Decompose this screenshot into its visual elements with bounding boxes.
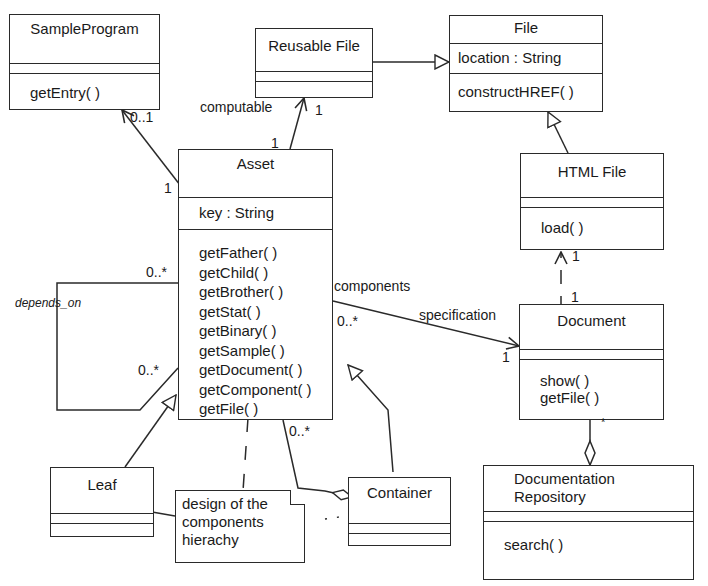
note-link-leaf: [152, 512, 175, 516]
aggregation-diamond: [585, 441, 595, 465]
association-reusable-file: [290, 98, 304, 149]
operation: getComponent( ): [199, 380, 324, 400]
class-html-file[interactable]: HTML File load( ): [520, 153, 664, 250]
attributes-section: [51, 513, 153, 523]
attributes-section: [256, 71, 372, 81]
role-computable: computable: [200, 99, 272, 115]
role-specification: specification: [419, 307, 496, 323]
class-name: HTML File: [521, 154, 663, 197]
multiplicity-sample-target: 0..1: [130, 109, 153, 125]
operations-section: [349, 533, 450, 545]
association-depends-on: depends_on: [15, 296, 81, 310]
operations-section: getFather( ) getChild( ) getBrother( ) g…: [179, 229, 332, 422]
operations-section: constructHREF( ): [450, 73, 602, 103]
operations-section: load( ): [521, 207, 663, 239]
note-link-asset: [243, 418, 248, 491]
multiplicity-reusable-target: 1: [315, 102, 323, 118]
generalization-leaf: [125, 395, 176, 467]
class-name: Asset: [179, 150, 332, 197]
attributes-section: [10, 63, 159, 73]
note-line: hierachy: [182, 531, 298, 549]
attributes-section: [520, 349, 663, 359]
note-line: components: [182, 513, 298, 531]
multiplicity-document-star: *: [601, 416, 605, 428]
attribute: key : String: [199, 204, 324, 221]
class-name: Documentation Repository: [484, 466, 693, 511]
attributes-section: key : String: [179, 197, 332, 229]
class-name: File: [450, 16, 602, 43]
class-name: Reusable File: [256, 29, 372, 71]
operation: constructHREF( ): [458, 83, 594, 100]
note-link-container: [325, 516, 347, 519]
operation: getBinary( ): [199, 321, 324, 341]
multiplicity-html-file: 1: [572, 248, 580, 264]
attributes-section: [484, 511, 693, 521]
multiplicity-container: 0..*: [289, 423, 310, 439]
class-container[interactable]: Container: [348, 477, 451, 546]
class-file[interactable]: File location : String constructHREF( ): [449, 15, 603, 112]
class-document[interactable]: Document show( ) getFile( ): [519, 304, 664, 420]
operation: getStat( ): [199, 302, 324, 322]
multiplicity-specification: 1: [502, 349, 510, 365]
operations-section: getEntry( ): [10, 73, 159, 104]
operations-section: [256, 81, 372, 97]
class-name: Document: [520, 305, 663, 349]
multiplicity-components: 0..*: [337, 313, 358, 329]
operation: getDocument( ): [199, 360, 324, 380]
class-asset[interactable]: Asset key : String getFather( ) getChild…: [178, 149, 333, 420]
generalization-container: [348, 365, 393, 472]
class-sample-program[interactable]: SampleProgram getEntry( ): [9, 14, 160, 110]
attributes-section: [349, 523, 450, 533]
multiplicity-depends-top: 0..*: [146, 264, 167, 280]
role-components: components: [334, 278, 410, 294]
note-components-hierarchy[interactable]: design of the components hierachy: [175, 490, 305, 563]
multiplicity-sample-source: 1: [164, 180, 172, 196]
class-name-line: Repository: [514, 488, 693, 506]
operation: getSample( ): [199, 341, 324, 361]
class-name: SampleProgram: [10, 15, 159, 63]
class-leaf[interactable]: Leaf: [50, 467, 154, 537]
operations-section: [51, 523, 153, 535]
operation: search( ): [504, 536, 685, 553]
attributes-section: location : String: [450, 43, 602, 73]
class-name-line: Documentation: [514, 470, 693, 488]
operation: getEntry( ): [30, 84, 151, 101]
generalization-html-file: [548, 112, 568, 153]
note-fold-corner: [290, 490, 305, 505]
attribute: location : String: [458, 49, 594, 66]
class-name: Leaf: [51, 468, 153, 513]
operation: getFile( ): [540, 389, 655, 406]
class-reusable-file[interactable]: Reusable File: [255, 28, 373, 98]
multiplicity-document-top: 1: [571, 289, 579, 305]
class-name: Container: [349, 478, 450, 523]
operations-section: show( ) getFile( ): [520, 359, 663, 409]
multiplicity-depends-bottom: 0..*: [138, 362, 159, 378]
operation: load( ): [541, 219, 655, 236]
operation: getChild( ): [199, 263, 324, 283]
note-line: design of the: [182, 495, 298, 513]
operation: getBrother( ): [199, 282, 324, 302]
operations-section: search( ): [484, 521, 693, 556]
operation: show( ): [540, 372, 655, 389]
multiplicity-reusable-source: 1: [271, 135, 279, 151]
operation: getFile( ): [199, 399, 324, 419]
attributes-section: [521, 197, 663, 207]
class-documentation-repository[interactable]: Documentation Repository search( ): [483, 465, 694, 580]
operation: getFather( ): [199, 243, 324, 263]
